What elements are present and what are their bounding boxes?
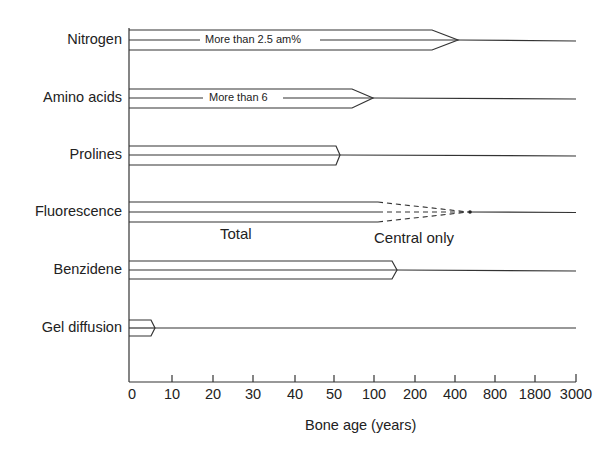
tick-label: 0 [128,386,136,402]
row-label-benzidene: Benzidene [0,261,122,277]
bar-amino-acids [129,89,576,108]
bar-nitrogen [129,30,576,50]
row-label-fluorescence: Fluorescence [0,203,122,219]
bar-gel-diffusion [129,320,576,336]
tick-label: 3000 [560,386,592,402]
x-axis-title: Bone age (years) [305,417,416,433]
row-label-prolines: Prolines [0,146,122,162]
tick-label: 40 [287,386,303,402]
row-label-amino-acids: Amino acids [0,89,122,105]
tick-label: 400 [443,386,467,402]
tick-label: 200 [403,386,427,402]
bar-prolines [129,146,576,165]
bar-benzidene [129,261,576,279]
row-label-nitrogen: Nitrogen [0,31,122,47]
fluorescence-central-label: Central only [374,229,454,246]
tick-label: 1800 [519,386,551,402]
fluorescence-end-dot [468,210,472,214]
tick-label: 50 [326,386,342,402]
tick-label: 30 [245,386,261,402]
tick-label: 10 [164,386,180,402]
row-label-gel-diffusion: Gel diffusion [0,319,122,335]
x-ticks [172,374,576,382]
tick-label: 100 [362,386,386,402]
tick-label: 800 [483,386,507,402]
amino-acids-note: More than 6 [206,91,271,103]
bar-fluorescence [129,202,576,222]
nitrogen-note: More than 2.5 am% [202,33,304,45]
tick-label: 20 [205,386,221,402]
fluorescence-total-label: Total [220,225,252,242]
